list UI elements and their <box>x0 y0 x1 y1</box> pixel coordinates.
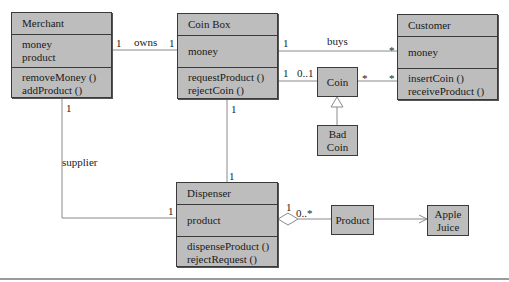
operation-insert-coin: insertCoin () <box>408 72 487 85</box>
mult-owns-coinbox: 1 <box>169 37 175 49</box>
aggregation-diamond-icon <box>278 213 298 225</box>
mult-owns-merchant: 1 <box>116 37 122 49</box>
operation-add-product: addProduct () <box>22 84 101 97</box>
bottom-rule-divider <box>0 278 509 280</box>
attribute-product: product <box>22 51 101 64</box>
class-merchant[interactable]: Merchant money product removeMoney () ad… <box>11 12 112 98</box>
class-name: Coin Box <box>178 14 277 35</box>
operation-receive-product: receiveProduct () <box>408 85 487 98</box>
label-owns: owns <box>134 36 157 48</box>
attribute-money: money <box>408 46 487 59</box>
class-bad-coin[interactable]: Bad Coin <box>317 125 358 156</box>
mult-dispenser-product-to: 0..* <box>296 207 313 219</box>
class-name-line2: Coin <box>327 141 348 154</box>
label-supplier: supplier <box>62 156 97 168</box>
mult-buys-customer: * <box>389 44 395 56</box>
class-dispenser[interactable]: Dispenser product dispenseProduct () rej… <box>176 182 278 267</box>
class-name-line1: Apple <box>435 208 462 221</box>
class-name: Dispenser <box>177 183 277 204</box>
class-product[interactable]: Product <box>331 205 374 235</box>
mult-supplier-merchant: 1 <box>66 102 72 114</box>
class-name: Merchant <box>12 13 111 34</box>
mult-coinbox-coin-from: 1 <box>283 67 289 79</box>
class-name-line1: Bad <box>329 128 347 141</box>
mult-supplier-dispenser: 1 <box>168 205 174 217</box>
mult-coinbox-dispenser-from: 1 <box>231 103 237 115</box>
attribute-money: money <box>22 38 101 51</box>
generalization-arrow-icon <box>331 97 343 107</box>
mult-coinbox-coin-to: 0..1 <box>297 67 314 79</box>
operation-request-product: requestProduct () <box>188 71 267 84</box>
class-customer[interactable]: Customer money insertCoin () receiveProd… <box>397 14 498 100</box>
class-name: Customer <box>398 15 497 36</box>
operation-reject-request: rejectRequest () <box>187 253 267 266</box>
class-name: Coin <box>327 76 348 89</box>
class-coin[interactable]: Coin <box>317 67 358 97</box>
attribute-money: money <box>188 45 267 58</box>
mult-dispenser-product-from: 1 <box>286 201 292 213</box>
mult-coinbox-dispenser-to: 1 <box>229 170 235 182</box>
mult-coin-customer-to: * <box>389 72 395 84</box>
mult-buys-coinbox: 1 <box>283 37 289 49</box>
mult-coin-customer-from: * <box>362 72 368 84</box>
class-apple-juice[interactable]: Apple Juice <box>427 205 469 236</box>
operation-reject-coin: rejectCoin () <box>188 84 267 97</box>
label-buys: buys <box>327 35 348 47</box>
operation-remove-money: removeMoney () <box>22 71 101 84</box>
class-coin-box[interactable]: Coin Box money requestProduct () rejectC… <box>177 13 278 99</box>
class-name: Product <box>335 214 369 227</box>
attribute-product: product <box>187 214 267 227</box>
class-name-line2: Juice <box>437 221 460 234</box>
operation-dispense-product: dispenseProduct () <box>187 240 267 253</box>
